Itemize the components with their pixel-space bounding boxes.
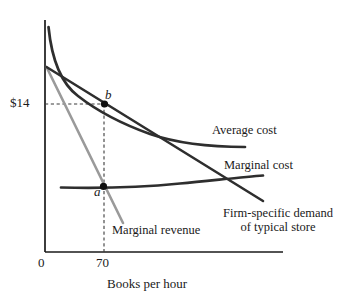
point-a-label: a bbox=[94, 185, 101, 200]
firm-demand-label: Firm-specific demand of typical store bbox=[223, 206, 333, 234]
average-cost-label: Average cost bbox=[212, 123, 277, 137]
marginal-cost-label: Marginal cost bbox=[224, 158, 293, 172]
x-axis-origin-label: 0 bbox=[38, 256, 45, 271]
firm-demand-label-line-1: Firm-specific demand bbox=[223, 206, 333, 220]
chart-plot-area bbox=[0, 0, 354, 300]
point-b-label: b bbox=[105, 88, 112, 103]
x-axis-title: Books per hour bbox=[107, 277, 187, 292]
firm-demand-label-line-2: of typical store bbox=[223, 220, 333, 234]
marginal-revenue-label: Marginal revenue bbox=[112, 223, 200, 237]
x-axis-tick-label-70: 70 bbox=[96, 256, 109, 271]
economics-chart-figure: $14 0 70 Books per hour b a Average cost… bbox=[0, 0, 354, 300]
y-axis-price-tick-label: $14 bbox=[10, 96, 30, 111]
